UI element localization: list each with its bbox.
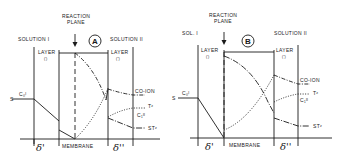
delta-left-label: δ' xyxy=(205,141,214,152)
diagram-root: REACTION PLANE SOLUTION I SOLUTION II A … xyxy=(0,0,341,155)
st-label: STᶻ xyxy=(313,123,322,129)
layer-left-label: LAYER xyxy=(201,47,219,53)
co-ion-label: CO-ION xyxy=(135,88,155,94)
delta-right-label: δ'' xyxy=(113,142,125,153)
c0-label: C₀ᴵ xyxy=(19,91,26,97)
c1-label: C₁ᴵᴵ xyxy=(137,112,145,118)
st-layer-curve xyxy=(108,118,145,128)
delta-left-label: δ' xyxy=(36,142,45,153)
co-ion-label: CO-ION xyxy=(300,77,320,83)
st-membrane-curve xyxy=(224,56,274,113)
layer-right-sub: ('') xyxy=(282,55,286,59)
s-label: S xyxy=(172,95,176,101)
solution-left-label: SOL. I xyxy=(182,30,198,36)
layer-left-sub: (') xyxy=(206,55,209,59)
co-ion-membrane-curve xyxy=(75,53,106,100)
panel-a-text: REACTION PLANE SOLUTION I SOLUTION II A … xyxy=(10,13,157,153)
arrow-head-icon xyxy=(222,40,227,45)
arrow-head-icon xyxy=(73,42,78,47)
c0-label: C₀ᴵ xyxy=(182,90,189,96)
plane-label: PLANE xyxy=(214,18,232,24)
t-label: Tᶻ xyxy=(148,103,153,109)
s-membrane-left xyxy=(59,130,75,139)
panel-id-label: A xyxy=(92,37,98,46)
layer-left-sub: (') xyxy=(44,57,47,61)
solution-left-label: SOLUTION I xyxy=(18,36,49,42)
layer-left-label: LAYER xyxy=(38,49,56,55)
plane-label: PLANE xyxy=(67,19,85,25)
t-membrane-curve xyxy=(75,88,108,139)
membrane-diagram: REACTION PLANE SOLUTION I SOLUTION II A … xyxy=(0,0,341,155)
membrane-label: MEMBRANE xyxy=(62,143,94,149)
membrane-label: MEMBRANE xyxy=(229,142,261,148)
t-label: Tᶻ xyxy=(313,90,318,96)
solution-right-label: SOLUTION II xyxy=(274,30,307,36)
t-membrane-curve xyxy=(224,75,274,130)
c1-label: C₁ᴵᴵ xyxy=(300,97,308,103)
panel-b-text: REACTION PLANE SOL. I SOLUTION II B LAYE… xyxy=(172,12,322,152)
solution-right-label: SOLUTION II xyxy=(110,36,143,42)
s-label: S xyxy=(10,96,14,102)
s-layer-left xyxy=(198,98,224,138)
delta-right-label: δ'' xyxy=(280,141,292,152)
st-layer-curve xyxy=(274,118,310,126)
layer-right-label: LAYER xyxy=(111,49,129,55)
layer-right-label: LAYER xyxy=(276,47,294,53)
s-layer-left xyxy=(34,99,59,121)
st-label: STᶻ xyxy=(148,125,157,131)
panel-id-label: B xyxy=(245,37,251,46)
layer-right-sub: ('') xyxy=(116,57,120,61)
